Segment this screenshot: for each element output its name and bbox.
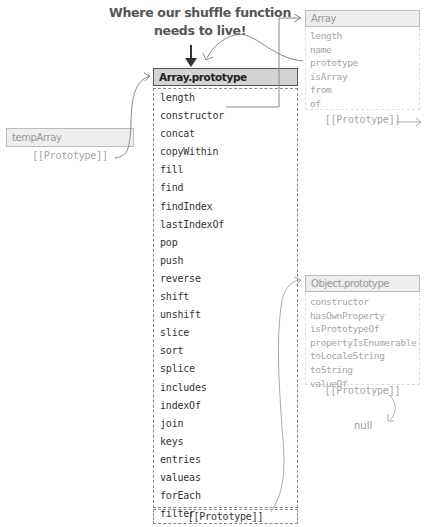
method-item: length <box>160 89 297 107</box>
array-constructor-header: Array <box>305 10 420 27</box>
method-item: constructor <box>160 107 297 125</box>
array-prototype-title: Array.prototype <box>159 71 247 83</box>
object-prototype-header: Object.prototype <box>305 275 420 292</box>
diagram-caption: Where our shuffle function needs to live… <box>100 4 300 40</box>
property-item: toLocaleString <box>310 349 419 363</box>
property-item: prototype <box>310 56 419 70</box>
array-prototype-header: Array.prototype <box>153 68 298 86</box>
property-item: of <box>310 97 419 111</box>
property-item: name <box>310 43 419 57</box>
object-prototype-prototype-label: [[Prototype]] <box>305 385 420 396</box>
object-prototype-properties-box: constructor hasOwnProperty isPrototypeOf… <box>305 293 420 385</box>
array-prototype-method-list: length constructor concat copyWithin fil… <box>160 89 297 527</box>
temp-array-prototype-label: [[Prototype]] <box>6 150 134 161</box>
caption-line-2: needs to live! <box>100 22 300 40</box>
method-item: unshift <box>160 306 297 324</box>
method-item: splice <box>160 360 297 378</box>
property-item: length <box>310 29 419 43</box>
array-prototype-methods-box: length constructor concat copyWithin fil… <box>153 88 298 508</box>
object-prototype-property-list: constructor hasOwnProperty isPrototypeOf… <box>310 295 419 390</box>
method-item: pop <box>160 234 297 252</box>
temp-array-title: tempArray <box>12 132 62 143</box>
method-item: includes <box>160 379 297 397</box>
method-item: push <box>160 252 297 270</box>
method-item: lastIndexOf <box>160 216 297 234</box>
property-item: isArray <box>310 70 419 84</box>
method-item: keys <box>160 433 297 451</box>
array-constructor-prototype-label: [[Prototype]] <box>305 114 420 125</box>
method-item: join <box>160 415 297 433</box>
method-item: indexOf <box>160 397 297 415</box>
null-terminal-label: null <box>354 420 372 431</box>
method-item: shift <box>160 288 297 306</box>
method-item: reverse <box>160 270 297 288</box>
array-constructor-properties-box: length name prototype isArray from of <box>305 28 420 110</box>
method-item: forEach <box>160 487 297 505</box>
array-constructor-property-list: length name prototype isArray from of <box>310 29 419 111</box>
array-prototype-prototype-box: [[Prototype]] <box>153 509 298 524</box>
caption-pointer-arrow <box>185 45 197 67</box>
method-item: sort <box>160 342 297 360</box>
method-item: concat <box>160 125 297 143</box>
method-item: fill <box>160 161 297 179</box>
method-item: find <box>160 179 297 197</box>
method-item: findIndex <box>160 198 297 216</box>
property-item: propertyIsEnumerable <box>310 336 419 350</box>
caption-line-1: Where our shuffle function <box>100 4 300 22</box>
property-item: toString <box>310 363 419 377</box>
array-constructor-title: Array <box>311 13 336 24</box>
method-item: entries <box>160 451 297 469</box>
method-item: copyWithin <box>160 143 297 161</box>
method-item: valueas <box>160 469 297 487</box>
property-item: isPrototypeOf <box>310 322 419 336</box>
method-item: slice <box>160 324 297 342</box>
object-prototype-title: Object.prototype <box>311 278 389 289</box>
property-item: hasOwnProperty <box>310 309 419 323</box>
temp-array-box: tempArray <box>6 128 134 147</box>
object-prototype-to-null-arrow <box>388 395 395 421</box>
property-item: from <box>310 83 419 97</box>
array-prototype-prototype-label: [[Prototype]] <box>154 510 297 523</box>
property-item: constructor <box>310 295 419 309</box>
